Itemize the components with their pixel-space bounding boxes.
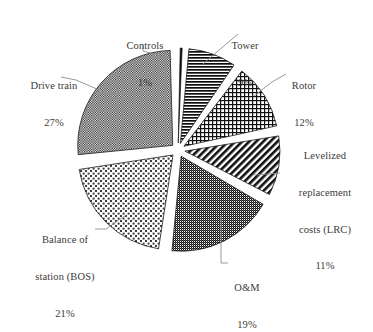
pie-label-bos-line2: station (BOS): [12, 271, 118, 283]
pie-label-lrc-line1: Levelized: [280, 150, 370, 162]
pie-label-controls-pct: 1%: [107, 77, 183, 89]
pie-label-lrc-pct: 11%: [280, 260, 370, 272]
pie-label-om-name: O&M: [216, 282, 278, 294]
pie-label-lrc-line3: costs (LRC): [280, 224, 370, 236]
pie-label-tower-name: Tower: [214, 40, 276, 52]
pie-label-bos-line1: Balance of: [12, 234, 118, 246]
pie-label-controls-name: Controls: [107, 40, 183, 52]
pie-label-drive-train-name: Drive train: [8, 80, 100, 92]
pie-label-om-pct: 19%: [216, 319, 278, 331]
pie-label-tower: Tower 9%: [214, 16, 276, 114]
pie-label-controls: Controls 1%: [107, 16, 183, 114]
pie-label-om: O&M 19%: [216, 258, 278, 332]
pie-label-tower-pct: 9%: [214, 77, 276, 89]
pie-label-lrc-line2: replacement: [280, 187, 370, 199]
pie-label-bos-pct: 21%: [12, 308, 118, 320]
pie-label-balance-of-station: Balance of station (BOS) 21%: [12, 210, 118, 332]
pie-label-levelized-replacement-costs: Levelized replacement costs (LRC) 11%: [280, 126, 370, 297]
pie-label-rotor-name: Rotor: [274, 80, 334, 92]
pie-label-drive-train: Drive train 27%: [8, 56, 100, 154]
pie-label-drive-train-pct: 27%: [8, 117, 100, 129]
